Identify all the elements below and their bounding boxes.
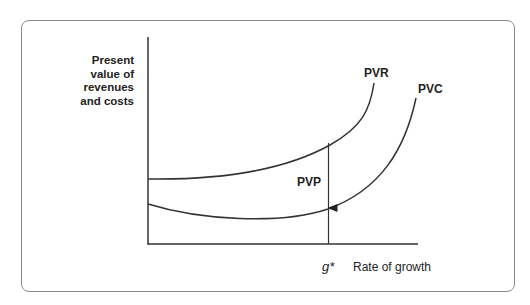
pvc-curve <box>148 98 416 219</box>
pvc-label: PVC <box>418 82 443 96</box>
pvr-curve <box>148 83 374 179</box>
pvp-label: PVP <box>297 175 321 189</box>
diagram-canvas <box>0 0 530 305</box>
pvr-label: PVR <box>364 66 389 80</box>
g-star-label: g* <box>322 259 334 274</box>
x-axis-label: Rate of growth <box>353 260 431 274</box>
